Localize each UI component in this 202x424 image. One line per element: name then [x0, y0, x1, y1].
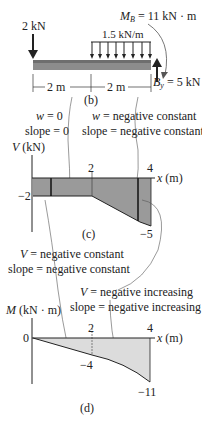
moment-value-neg11: −11: [138, 385, 156, 399]
note-w-zero: w = 0: [36, 109, 63, 123]
note-slope-zero: slope = 0: [25, 124, 69, 138]
shear-tick-2: 2: [88, 161, 94, 175]
distributed-load-icon: [90, 42, 152, 59]
moment-y-label: M (kN · m): [5, 303, 61, 317]
distributed-load-label: 1.5 kN/m: [102, 28, 144, 40]
caption-b: (b): [84, 93, 98, 107]
shear-value-neg2: −2: [18, 189, 31, 203]
note-w-negative: w = negative constant: [92, 109, 197, 123]
shear-value-neg5: −5: [140, 227, 153, 241]
note-v-negative-constant: V = negative constant: [20, 247, 124, 261]
moment-diagram: M (kN · m) x (m) 0 2 4 −4 −11 (d): [5, 303, 183, 415]
caption-c: (c): [82, 227, 95, 241]
moment-label: MB = 11 kN · m: [119, 9, 197, 24]
moment-tick-2: 2: [88, 321, 94, 335]
shear-x-label: x (m): [156, 171, 183, 185]
moment-value-neg4: −4: [80, 358, 93, 372]
point-load-label: 2 kN: [22, 19, 46, 33]
shear-tick-4: 4: [147, 161, 153, 175]
beam-diagram-figure: 2 kN 1.5 kN/m: [0, 0, 202, 424]
moment-x-label: x (m): [156, 331, 183, 345]
note-slope-negative: slope = negative constant: [82, 124, 202, 138]
reaction-label: By = 5 kN: [153, 75, 201, 90]
loading-diagram: 2 kN 1.5 kN/m: [22, 9, 201, 107]
point-load-arrow-icon: [28, 34, 38, 59]
dimension-2: 2 m: [107, 80, 126, 94]
moment-tick-4: 4: [147, 321, 153, 335]
shear-diagram: V (kN) x (m) 2 4 −2 −5 (c): [12, 140, 183, 241]
caption-d: (d): [80, 401, 94, 415]
note-v-negative-increasing: V = negative increasing: [80, 285, 193, 299]
note-slope-negative-constant: slope = negative constant: [8, 262, 130, 276]
shear-y-label: V (kN): [12, 140, 45, 154]
moment-zero: 0: [23, 331, 29, 345]
dimension-1: 2 m: [47, 80, 66, 94]
note-slope-negative-increasing: slope = negative increasing: [70, 300, 201, 314]
